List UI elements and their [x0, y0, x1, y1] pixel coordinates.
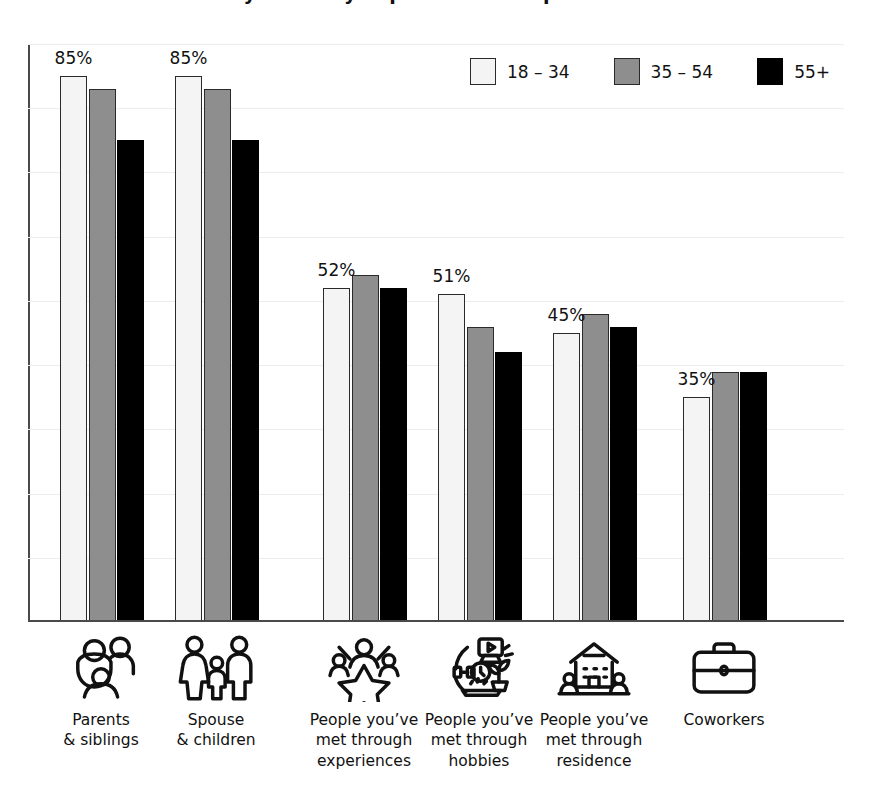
- bar-spouse-children-18-34[interactable]: [175, 76, 202, 622]
- bar-value-label: 85%: [55, 48, 93, 68]
- briefcase-icon: [681, 632, 767, 704]
- category-spouse-children: Spouse & children: [146, 632, 286, 751]
- family-spouse-children-icon: [173, 632, 259, 704]
- category-label-coworkers: Coworkers: [683, 710, 764, 730]
- bar-coworkers-55+[interactable]: [740, 372, 767, 622]
- bar-spouse-children-55+[interactable]: [232, 140, 259, 622]
- category-label-parents-siblings: Parents & siblings: [63, 710, 139, 751]
- legend-swatch-35-54: [614, 58, 640, 85]
- family-parents-siblings-icon: [58, 632, 144, 704]
- bar-met-residence-55+[interactable]: [610, 327, 637, 622]
- category-coworkers: Coworkers: [654, 632, 794, 730]
- legend-label-18-34: 18 – 34: [507, 62, 570, 82]
- legend-item-18-34[interactable]: 18 – 34: [470, 58, 570, 85]
- bar-parents-siblings-18-34[interactable]: [60, 76, 87, 622]
- legend-swatch-55-plus: [757, 58, 783, 85]
- bar-met-residence-18-34[interactable]: [553, 333, 580, 622]
- bar-parents-siblings-55+[interactable]: [117, 140, 144, 622]
- legend-label-35-54: 35 – 54: [651, 62, 714, 82]
- y-axis-line: [28, 44, 30, 622]
- category-label-spouse-children: Spouse & children: [176, 710, 255, 751]
- bar-coworkers-35-54[interactable]: [712, 372, 739, 622]
- bar-spouse-children-35-54[interactable]: [204, 89, 231, 622]
- legend-item-55-plus[interactable]: 55+: [757, 58, 830, 85]
- category-label-met-experiences: People you’ve met through experiences: [310, 710, 419, 771]
- bar-parents-siblings-35-54[interactable]: [89, 89, 116, 622]
- bar-value-label: 35%: [678, 369, 716, 389]
- category-label-met-residence: People you’ve met through residence: [540, 710, 649, 771]
- bar-group: 85%: [175, 44, 259, 622]
- bar-value-label: 45%: [548, 305, 586, 325]
- bar-group: 45%: [553, 44, 637, 622]
- legend: 18 – 34 35 – 54 55+: [470, 58, 830, 85]
- bar-value-label: 51%: [433, 266, 471, 286]
- bar-group: 51%: [438, 44, 522, 622]
- category-axis: Parents & siblings Spouse & children Peo…: [28, 632, 844, 802]
- bar-met-hobbies-35-54[interactable]: [467, 327, 494, 622]
- bar-value-label: 85%: [170, 48, 208, 68]
- category-met-residence: People you’ve met through residence: [524, 632, 664, 771]
- x-axis-line: [28, 620, 844, 622]
- bar-met-residence-35-54[interactable]: [582, 314, 609, 622]
- bar-met-experiences-18-34[interactable]: [323, 288, 350, 622]
- chart-title: Adults say it is very important to keep …: [0, 0, 870, 4]
- bar-met-hobbies-55+[interactable]: [495, 352, 522, 622]
- hobbies-collage-icon: [436, 632, 522, 704]
- bar-met-hobbies-18-34[interactable]: [438, 294, 465, 622]
- bar-met-experiences-55+[interactable]: [380, 288, 407, 622]
- people-star-experiences-icon: [321, 632, 407, 704]
- category-label-met-hobbies: People you’ve met through hobbies: [425, 710, 534, 771]
- bar-group: 35%: [683, 44, 767, 622]
- bar-group: 52%: [323, 44, 407, 622]
- legend-label-55-plus: 55+: [794, 62, 830, 82]
- bar-value-label: 52%: [318, 260, 356, 280]
- legend-swatch-18-34: [470, 58, 496, 85]
- bar-chart: Adults say it is very important to keep …: [0, 0, 870, 804]
- bar-met-experiences-35-54[interactable]: [352, 275, 379, 622]
- plot-area: 85%85%52%51%45%35%: [28, 44, 844, 622]
- legend-item-35-54[interactable]: 35 – 54: [614, 58, 714, 85]
- house-neighbors-icon: [551, 632, 637, 704]
- bar-group: 85%: [60, 44, 144, 622]
- bar-coworkers-18-34[interactable]: [683, 397, 710, 622]
